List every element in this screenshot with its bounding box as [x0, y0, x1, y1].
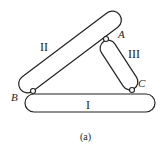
- bar-I: [25, 94, 155, 112]
- label-bar-III: III: [128, 47, 140, 61]
- joint-C: [130, 88, 135, 93]
- bar-III: [97, 37, 141, 93]
- label-joint-C: C: [138, 77, 146, 89]
- joint-B: [31, 89, 36, 94]
- caption: (a): [80, 131, 91, 143]
- label-bar-I: I: [86, 98, 90, 112]
- label-joint-B: B: [11, 91, 18, 103]
- label-bar-II: II: [40, 40, 48, 54]
- label-joint-A: A: [117, 28, 125, 40]
- linkage-diagram: I II III A B C (a): [0, 0, 167, 148]
- joint-A: [104, 37, 109, 42]
